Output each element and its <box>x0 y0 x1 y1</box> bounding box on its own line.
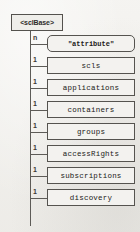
root-node-sclbase[interactable]: <sclBase> <box>11 14 63 31</box>
sclbase-tree-diagram: <sclBase> n "attribute" 1 scls 1 applica… <box>0 0 140 232</box>
tree-row: 1 applications <box>0 77 140 99</box>
node-attribute[interactable]: "attribute" <box>47 35 135 52</box>
connector-stub <box>31 132 47 133</box>
cardinality-label: 1 <box>33 77 37 87</box>
node-applications[interactable]: applications <box>47 79 135 96</box>
cardinality-label: 1 <box>33 55 37 65</box>
connector-stub <box>31 176 47 177</box>
tree-row: 1 scls <box>0 55 140 77</box>
connector-stub <box>31 66 47 67</box>
connector-stub <box>31 44 47 45</box>
tree-row: 1 discovery <box>0 187 140 209</box>
cardinality-label: 1 <box>33 165 37 175</box>
node-subscriptions[interactable]: subscriptions <box>47 167 135 184</box>
node-accessrights[interactable]: accessRights <box>47 145 135 162</box>
node-containers[interactable]: containers <box>47 101 135 118</box>
tree-row: n "attribute" <box>0 33 140 55</box>
connector-stub <box>31 154 47 155</box>
cardinality-label: 1 <box>33 99 37 109</box>
cardinality-label: n <box>33 33 37 43</box>
node-scls[interactable]: scls <box>47 57 135 74</box>
cardinality-label: 1 <box>33 143 37 153</box>
connector-stub <box>31 198 47 199</box>
node-groups[interactable]: groups <box>47 123 135 140</box>
tree-row: 1 subscriptions <box>0 165 140 187</box>
tree-row: 1 groups <box>0 121 140 143</box>
node-discovery[interactable]: discovery <box>47 189 135 206</box>
cardinality-label: 1 <box>33 121 37 131</box>
tree-row: 1 accessRights <box>0 143 140 165</box>
connector-stub <box>31 110 47 111</box>
cardinality-label: 1 <box>33 187 37 197</box>
tree-row: 1 containers <box>0 99 140 121</box>
connector-stub <box>31 88 47 89</box>
